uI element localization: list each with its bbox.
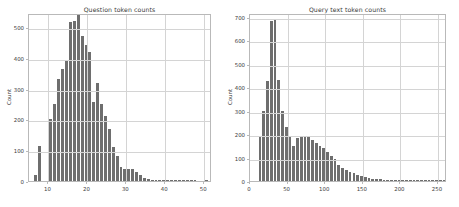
gridline-horizontal xyxy=(250,160,445,161)
y-tick-label: 500 xyxy=(6,25,24,31)
y-tick-mark xyxy=(247,18,249,19)
y-tick-label: 0 xyxy=(227,179,245,185)
y-tick-label: 100 xyxy=(227,156,245,162)
gridline-horizontal xyxy=(250,42,445,43)
y-tick-mark xyxy=(247,41,249,42)
y-tick-mark xyxy=(26,182,28,183)
y-tick-label: 400 xyxy=(227,85,245,91)
panel-query-text-token-counts: Query text token counts Count xyxy=(0,0,459,207)
x-tick-label: 250 xyxy=(432,186,442,192)
histogram-bar xyxy=(442,180,446,181)
histogram-figure: Question token counts Count Query text t… xyxy=(0,0,459,207)
y-tick-label: 100 xyxy=(6,148,24,154)
y-tick-mark xyxy=(247,112,249,113)
gridline-vertical xyxy=(363,15,364,181)
y-tick-mark xyxy=(247,182,249,183)
x-tick-label: 20 xyxy=(83,186,90,192)
x-tick-mark xyxy=(437,182,438,184)
y-tick-label: 700 xyxy=(227,15,245,21)
x-tick-mark xyxy=(125,182,126,184)
x-tick-label: 40 xyxy=(161,186,168,192)
bars-query xyxy=(250,15,445,181)
y-axis-label-query: Count xyxy=(227,89,233,105)
gridline-horizontal xyxy=(250,113,445,114)
y-tick-label: 300 xyxy=(6,87,24,93)
x-tick-label: 0 xyxy=(247,186,250,192)
y-tick-mark xyxy=(247,88,249,89)
x-tick-mark xyxy=(399,182,400,184)
gridline-horizontal xyxy=(250,19,445,20)
x-tick-mark xyxy=(47,182,48,184)
x-tick-label: 30 xyxy=(122,186,129,192)
x-tick-label: 50 xyxy=(283,186,290,192)
x-tick-mark xyxy=(86,182,87,184)
y-tick-label: 200 xyxy=(6,117,24,123)
y-tick-mark xyxy=(26,151,28,152)
y-tick-label: 600 xyxy=(227,38,245,44)
y-tick-mark xyxy=(26,90,28,91)
y-tick-label: 400 xyxy=(6,56,24,62)
y-tick-mark xyxy=(26,59,28,60)
plot-area-query xyxy=(249,14,446,182)
x-tick-mark xyxy=(164,182,165,184)
x-tick-mark xyxy=(203,182,204,184)
y-tick-label: 500 xyxy=(227,62,245,68)
gridline-vertical xyxy=(438,15,439,181)
gridline-horizontal xyxy=(250,89,445,90)
y-tick-mark xyxy=(247,159,249,160)
gridline-horizontal xyxy=(250,136,445,137)
x-tick-mark xyxy=(287,182,288,184)
chart-title-query: Query text token counts xyxy=(249,6,446,13)
y-tick-mark xyxy=(26,28,28,29)
y-tick-label: 300 xyxy=(227,109,245,115)
y-tick-mark xyxy=(247,65,249,66)
y-tick-mark xyxy=(247,135,249,136)
x-tick-mark xyxy=(249,182,250,184)
y-tick-label: 0 xyxy=(6,179,24,185)
x-tick-label: 10 xyxy=(44,186,51,192)
gridline-vertical xyxy=(325,15,326,181)
x-tick-label: 100 xyxy=(319,186,329,192)
x-tick-label: 150 xyxy=(357,186,367,192)
x-tick-mark xyxy=(362,182,363,184)
gridline-vertical xyxy=(288,15,289,181)
gridline-horizontal xyxy=(250,66,445,67)
x-tick-mark xyxy=(324,182,325,184)
x-tick-label: 50 xyxy=(200,186,207,192)
x-tick-label: 200 xyxy=(394,186,404,192)
y-tick-mark xyxy=(26,120,28,121)
gridline-vertical xyxy=(400,15,401,181)
y-tick-label: 200 xyxy=(227,132,245,138)
